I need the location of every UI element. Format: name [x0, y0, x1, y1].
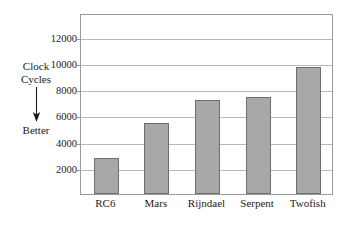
y-tick-label: 8000 [56, 86, 77, 96]
bar-rijndael [195, 100, 220, 194]
y-tick-label: 12000 [51, 34, 77, 44]
bar-rc6 [94, 158, 119, 194]
y-axis-annotation: Clock Cycles Better [0, 60, 72, 136]
bar-serpent [246, 97, 271, 194]
x-axis-label-mars: Mars [145, 197, 168, 210]
y-tick-label: 4000 [56, 139, 77, 149]
y-tick-label: 10000 [51, 60, 77, 70]
bar-twofish [296, 67, 321, 194]
x-axis-label-rijndael: Rijndael [188, 197, 225, 210]
chart-container: Clock Cycles Better 20004000600080001000… [0, 0, 346, 227]
x-axis-label-twofish: Twofish [290, 197, 326, 210]
x-axis-label-rc6: RC6 [95, 197, 115, 210]
x-axis-label-serpent: Serpent [240, 197, 274, 210]
better-label: Better [0, 124, 72, 136]
y-tick-label: 2000 [56, 165, 77, 175]
bar-mars [144, 123, 169, 194]
axis-label-line2: Cycles [0, 73, 72, 86]
bars-group [81, 15, 332, 194]
y-tick-label: 6000 [56, 112, 77, 122]
plot-area: 20004000600080001000012000 [80, 14, 333, 195]
x-axis-labels: RC6MarsRijndaelSerpentTwofish [80, 197, 333, 217]
